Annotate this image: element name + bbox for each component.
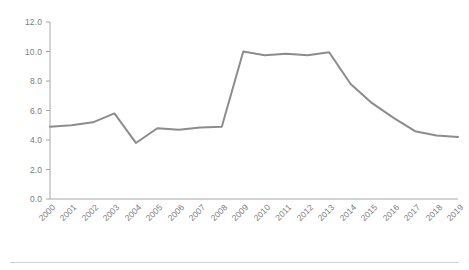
footer-rule <box>10 262 459 263</box>
y-axis-tick-label-text: 4.0 <box>8 136 42 145</box>
y-axis-tick-label: 12.0 <box>8 18 42 19</box>
y-axis-tick-label-text: 12.0 <box>8 18 42 27</box>
y-axis-tick-label: 10.0 <box>8 48 42 49</box>
y-axis-tick-label-text: 0.0 <box>8 195 42 204</box>
y-axis-tick-label-text: 6.0 <box>8 107 42 116</box>
y-axis-tick-label: 4.0 <box>8 136 42 137</box>
y-axis-ticks <box>46 22 50 199</box>
y-axis-tick-label: 6.0 <box>8 107 42 108</box>
y-axis-tick-label: 0.0 <box>8 195 42 196</box>
y-axis-tick-label: 8.0 <box>8 77 42 78</box>
line-chart: 0.02.04.06.08.010.012.0 2000200120022003… <box>0 0 469 270</box>
y-axis-tick-label-text: 2.0 <box>8 166 42 175</box>
y-axis-tick-label-text: 10.0 <box>8 48 42 57</box>
chart-plot-area <box>0 0 469 270</box>
series-line <box>50 52 458 143</box>
y-axis-tick-label-text: 8.0 <box>8 77 42 86</box>
y-axis-tick-label: 2.0 <box>8 166 42 167</box>
